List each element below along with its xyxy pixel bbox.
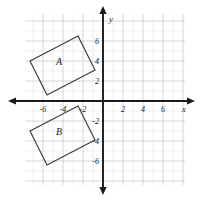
y-tick-label: -2 bbox=[92, 117, 99, 126]
y-tick-label: 6 bbox=[95, 37, 99, 46]
shape-label-a: A bbox=[55, 56, 63, 67]
y-axis-arrow-up bbox=[99, 6, 106, 14]
x-axis-label: x bbox=[181, 104, 186, 114]
shape-b bbox=[30, 106, 95, 165]
y-tick-label: 4 bbox=[95, 57, 99, 66]
shape-label-b: B bbox=[56, 126, 62, 137]
x-axis-arrow-left bbox=[8, 97, 16, 104]
x-tick-label: 6 bbox=[161, 105, 165, 114]
x-tick-label: 4 bbox=[141, 105, 145, 114]
grid-lines bbox=[25, 14, 185, 185]
y-axis-arrow-down bbox=[99, 187, 106, 195]
y-tick-label: 2 bbox=[95, 77, 99, 86]
coordinate-plane-figure: -6-4-2246642-2-4-6 AB xy bbox=[0, 0, 200, 200]
coordinate-plot-svg: -6-4-2246642-2-4-6 AB xy bbox=[0, 0, 200, 200]
shape-a bbox=[30, 36, 95, 95]
y-tick-label: -6 bbox=[92, 157, 99, 166]
x-axis-arrow-right bbox=[187, 97, 195, 104]
x-tick-label: 2 bbox=[121, 105, 125, 114]
y-axis-label: y bbox=[108, 14, 113, 24]
axis-lines bbox=[8, 6, 195, 195]
x-tick-label: -6 bbox=[40, 105, 47, 114]
axis-name-labels: xy bbox=[108, 14, 186, 114]
